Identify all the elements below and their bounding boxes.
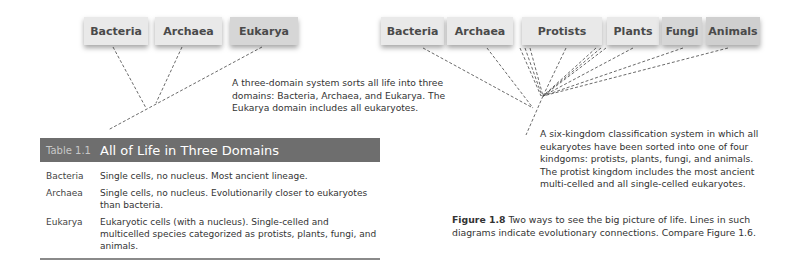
row-domain: Eukarya — [40, 216, 100, 252]
figure-label: Figure 1.8 — [452, 214, 505, 225]
box-animals: Animals — [706, 17, 760, 45]
row-domain: Archaea — [40, 187, 100, 211]
box-protists: Protists — [522, 17, 602, 45]
figure-caption: Figure 1.8 Two ways to see the big pictu… — [452, 214, 782, 239]
table-label: Table 1.1 — [40, 145, 100, 156]
row-description: Single cells, no nucleus. Most ancient l… — [100, 170, 380, 182]
row-description: Single cells, no nucleus. Evolutionarily… — [100, 187, 380, 211]
box-archaea: Archaea — [155, 17, 222, 45]
box-bacteria-6k: Bacteria — [381, 17, 444, 45]
box-plants: Plants — [607, 17, 659, 45]
box-fungi: Fungi — [662, 17, 702, 45]
three-domain-description: A three-domain system sorts all life int… — [232, 77, 482, 115]
table-title: All of Life in Three Domains — [100, 143, 279, 158]
box-bacteria: Bacteria — [84, 17, 148, 45]
row-domain: Bacteria — [40, 170, 100, 182]
box-archaea-6k: Archaea — [447, 17, 513, 45]
six-kingdom-description: A six-kingdom classification system in w… — [540, 128, 762, 191]
table-row: Bacteria Single cells, no nucleus. Most … — [40, 162, 380, 182]
table-row: Archaea Single cells, no nucleus. Evolut… — [40, 182, 380, 211]
box-eukarya: Eukarya — [230, 17, 298, 45]
domains-table: Table 1.1 All of Life in Three Domains B… — [40, 138, 380, 260]
table-row: Eukarya Eukaryotic cells (with a nucleus… — [40, 211, 380, 252]
row-description: Eukaryotic cells (with a nucleus). Singl… — [100, 216, 380, 252]
table-header: Table 1.1 All of Life in Three Domains — [40, 138, 380, 162]
